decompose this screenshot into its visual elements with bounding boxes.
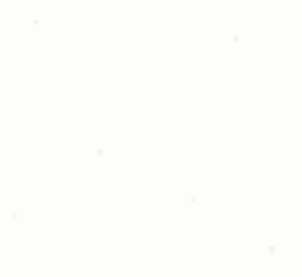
bar-chart: 2 4 6 8 10 12 5 10 15 20 25 30 35 Millio… (0, 0, 302, 277)
x-tick-label-25: 25 (204, 237, 218, 244)
x-tick-label-30: 30 (239, 237, 253, 244)
bar-late-7 (83, 68, 95, 229)
chart-legend: Culture in early logarithmic phase Cultu… (159, 38, 274, 98)
x-tick-label-15: 15 (133, 237, 147, 244)
bar-early-12 (106, 206, 119, 229)
bar-late-17 (154, 127, 166, 229)
bar-late-2 (48, 18, 60, 229)
x-tick-label-5: 5 (62, 237, 76, 244)
y-tick-label-10: 10 (8, 49, 25, 56)
bar-late-22 (190, 144, 202, 228)
x-tick-label-20: 20 (168, 237, 182, 244)
legend-label-early-line1: Culture in early (182, 38, 243, 48)
legend-swatch-late-icon (159, 69, 174, 84)
y-tick-label-2: 2 (8, 189, 25, 196)
x-tick-label-10: 10 (97, 237, 111, 244)
bar-late-12 (119, 101, 131, 229)
legend-swatch-early-icon (159, 39, 174, 54)
bar-early-17 (141, 219, 154, 229)
bar-late-27 (225, 156, 237, 229)
legend-item-late: Culture in late maximum stationary phase (159, 68, 274, 87)
y-tick-label-12: 12 (8, 14, 25, 21)
bar-early-7 (70, 154, 83, 229)
legend-label-late-line1: Culture in late (182, 68, 274, 78)
x-tick-label-35: 35 (275, 237, 289, 244)
legend-label-early-line2: logarithmic phase (182, 48, 243, 58)
legend-label-late-line2: maximum stationary phase (182, 78, 274, 88)
y-axis-title: Millions of viable cells (10, 67, 19, 167)
legend-item-early: Culture in early logarithmic phase (159, 38, 274, 57)
x-axis-title: Time , min (0, 256, 302, 265)
bar-early-2 (35, 18, 48, 229)
bar-late-32 (261, 169, 273, 229)
bar-early-22 (177, 226, 190, 228)
